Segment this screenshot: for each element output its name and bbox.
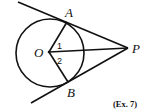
label-angle-2: 2 bbox=[57, 56, 62, 66]
label-o: O bbox=[34, 45, 44, 60]
caption-example: (Ex. 7) bbox=[113, 99, 137, 109]
label-angle-1: 1 bbox=[57, 41, 62, 51]
label-p: P bbox=[131, 41, 140, 56]
tangent-diagram: A B P O 1 2 (Ex. 7) bbox=[0, 0, 156, 112]
tangent-line-pb bbox=[31, 48, 128, 103]
label-a: A bbox=[64, 5, 73, 20]
point-o-dot bbox=[48, 51, 51, 54]
label-b: B bbox=[67, 85, 75, 100]
tangent-line-pa bbox=[18, 2, 128, 48]
